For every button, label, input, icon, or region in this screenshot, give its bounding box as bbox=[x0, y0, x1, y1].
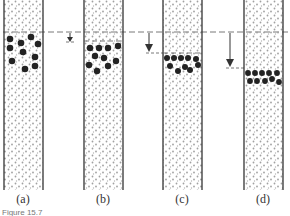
panel-label-d: (d) bbox=[243, 192, 283, 207]
panel-label-b: (b) bbox=[83, 192, 123, 207]
arrow-c bbox=[226, 33, 244, 68]
arrow-a bbox=[66, 33, 76, 42]
tube-c bbox=[163, 0, 202, 190]
arrow-b bbox=[145, 33, 163, 53]
tube-a bbox=[4, 0, 43, 190]
sedimentation-diagram bbox=[0, 0, 290, 216]
panel-label-a: (a) bbox=[3, 192, 43, 207]
tube-d bbox=[244, 0, 283, 190]
panel-label-c: (c) bbox=[162, 192, 202, 207]
tube-b bbox=[84, 0, 123, 190]
figure-caption: Figure 15.7 bbox=[2, 208, 42, 216]
